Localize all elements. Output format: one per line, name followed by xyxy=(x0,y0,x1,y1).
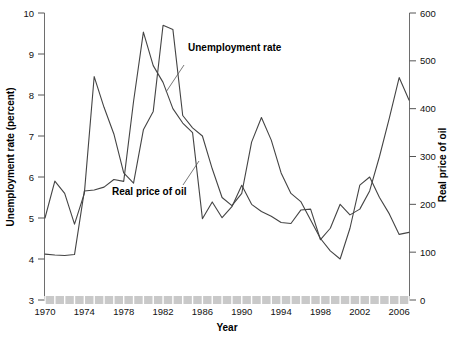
y2-tick-label-500: 500 xyxy=(420,55,436,66)
y-tick-label-3: 3 xyxy=(29,295,34,306)
y2-tick-label-600: 600 xyxy=(420,8,436,19)
x-axis-tick-gap xyxy=(379,296,380,304)
x-tick-label-1986: 1986 xyxy=(192,306,213,317)
x-axis-tick-gap xyxy=(271,296,272,304)
x-axis-tick-gap xyxy=(74,296,75,304)
annotation-leader-oil xyxy=(183,161,199,185)
x-tick-label-1998: 1998 xyxy=(310,306,331,317)
x-axis-tick-gap xyxy=(64,296,65,304)
series-line-real-price-of-oil xyxy=(45,32,409,255)
x-axis-tick-gap xyxy=(290,296,291,304)
x-tick-label-1994: 1994 xyxy=(271,306,292,317)
x-axis-tick-gap xyxy=(153,296,154,304)
x-axis-tick-gap xyxy=(93,296,94,304)
y2-tick-label-200: 200 xyxy=(420,199,436,210)
x-tick-label-1982: 1982 xyxy=(152,306,173,317)
x-axis-tick-gap xyxy=(359,296,360,304)
x-axis-tick-gap xyxy=(330,296,331,304)
y-tick-label-4: 4 xyxy=(29,254,34,265)
y-tick-label-8: 8 xyxy=(29,90,34,101)
annotation-label-real-price-of-oil: Real price of oil xyxy=(112,186,187,197)
x-axis-tick-gap xyxy=(44,296,45,304)
y2-tick-label-400: 400 xyxy=(420,103,436,114)
series-line-unemployment-rate xyxy=(45,25,409,259)
y-tick-label-7: 7 xyxy=(29,131,34,142)
x-axis-tick-gap xyxy=(192,296,193,304)
y2-tick-label-100: 100 xyxy=(420,247,436,258)
x-axis-band xyxy=(44,296,409,304)
x-axis-tick-gap xyxy=(162,296,163,304)
x-axis-tick-gap xyxy=(389,296,390,304)
x-axis-tick-gap xyxy=(280,296,281,304)
y2-tick-label-300: 300 xyxy=(420,151,436,162)
y-axis-right-ticks xyxy=(410,13,417,300)
y-tick-label-10: 10 xyxy=(23,8,34,19)
x-axis-tick-gap xyxy=(310,296,311,304)
x-axis-tick-labels: 1970197419781982198619901994199820022006 xyxy=(34,306,409,317)
y-tick-label-5: 5 xyxy=(29,213,34,224)
x-axis-tick-gap xyxy=(103,296,104,304)
x-axis-tick-gap xyxy=(261,296,262,304)
y-axis-title: Unemployment rate (percent) xyxy=(5,88,16,227)
x-axis-tick-gap xyxy=(339,296,340,304)
x-axis-title: Year xyxy=(216,322,237,333)
x-tick-label-1970: 1970 xyxy=(34,306,55,317)
x-axis-tick-gap xyxy=(320,296,321,304)
x-axis-tick-gap xyxy=(172,296,173,304)
x-axis-tick-gap xyxy=(143,296,144,304)
x-tick-label-1990: 1990 xyxy=(231,306,252,317)
x-axis-tick-gap xyxy=(251,296,252,304)
annotation-leader-unemployment xyxy=(166,65,184,92)
x-axis-tick-gap xyxy=(202,296,203,304)
x-axis-tick-gap xyxy=(221,296,222,304)
x-axis-tick-gap xyxy=(231,296,232,304)
x-axis-tick-gap xyxy=(212,296,213,304)
x-axis-tick-gap xyxy=(113,296,114,304)
annotation-label-unemployment-rate: Unemployment rate xyxy=(188,42,282,53)
x-axis-tick-gap xyxy=(241,296,242,304)
x-axis-tick-gap xyxy=(300,296,301,304)
x-axis-tick-gap xyxy=(369,296,370,304)
x-axis-tick-gap xyxy=(349,296,350,304)
y2-tick-label-0: 0 xyxy=(420,295,425,306)
x-axis-tick-gap xyxy=(182,296,183,304)
x-tick-label-2002: 2002 xyxy=(349,306,370,317)
y2-axis-title: Real price of oil xyxy=(437,128,448,203)
x-axis-tick-gap xyxy=(84,296,85,304)
y-tick-label-9: 9 xyxy=(29,49,34,60)
y-axis-left-ticks xyxy=(38,13,45,300)
x-axis-tick-gap xyxy=(54,296,55,304)
x-tick-label-1974: 1974 xyxy=(74,306,95,317)
chart-figure: 10 9 8 7 6 5 4 3 600 500 400 300 200 100… xyxy=(0,0,453,343)
chart-canvas: 10 9 8 7 6 5 4 3 600 500 400 300 200 100… xyxy=(0,0,453,343)
x-tick-label-1978: 1978 xyxy=(113,306,134,317)
x-axis-tick-gap xyxy=(133,296,134,304)
x-axis-tick-gap xyxy=(123,296,124,304)
x-axis-tick-gap xyxy=(408,296,409,304)
y-tick-label-6: 6 xyxy=(29,172,34,183)
x-axis-tick-gap xyxy=(398,296,399,304)
x-tick-label-2006: 2006 xyxy=(389,306,410,317)
